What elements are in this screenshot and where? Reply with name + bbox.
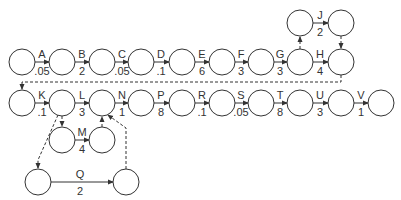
activity-name: J [317, 9, 323, 21]
activity-name: T [277, 89, 284, 101]
activity-duration: 3 [238, 65, 244, 77]
event-node [49, 49, 75, 75]
activity-name: F [238, 48, 245, 60]
activity-name: M [77, 126, 86, 138]
activity-duration: 2 [77, 185, 83, 197]
activity-name: H [316, 48, 324, 60]
activity-name: E [198, 48, 205, 60]
event-node [287, 49, 313, 75]
activity-duration: .1 [197, 106, 206, 118]
activity-duration: 1 [358, 106, 364, 118]
event-node [368, 90, 394, 116]
activity-name: L [79, 89, 85, 101]
event-node [248, 90, 274, 116]
activity-name: C [118, 48, 126, 60]
event-node [9, 90, 35, 116]
activity-duration: 3 [79, 106, 85, 118]
activity-duration: 2 [317, 26, 323, 38]
activity-name: S [237, 89, 244, 101]
activity-duration: .1 [156, 65, 165, 77]
activity-name: B [78, 48, 85, 60]
event-node [128, 90, 154, 116]
activity-duration: 6 [199, 65, 205, 77]
event-node [49, 90, 75, 116]
activity-duration: .1 [37, 106, 46, 118]
event-node [89, 127, 115, 153]
activity-duration: .05 [233, 106, 248, 118]
activity-name: N [118, 89, 126, 101]
activity-name: G [276, 48, 285, 60]
activity-duration: 4 [79, 143, 85, 155]
activity-duration: 2 [79, 65, 85, 77]
event-node [328, 10, 354, 36]
network-diagram: A .05 B 2 C .05 D .1 E 6 F 3 G 3 H 4 J 2… [0, 0, 401, 200]
event-node [209, 49, 235, 75]
event-node [89, 90, 115, 116]
activity-duration: 8 [277, 106, 283, 118]
activity-duration: 8 [158, 106, 164, 118]
event-node [209, 90, 235, 116]
event-node [328, 90, 354, 116]
activity-duration: 4 [317, 65, 323, 77]
event-node [49, 127, 75, 153]
activity-duration: .05 [34, 65, 49, 77]
dummy-row1-to-row2 [22, 75, 341, 89]
event-node [287, 10, 313, 36]
activity-name: V [357, 89, 365, 101]
activity-duration: 1 [119, 106, 125, 118]
activity-name: R [198, 89, 206, 101]
event-node [169, 49, 195, 75]
activity-name: U [316, 89, 324, 101]
event-node [25, 169, 51, 195]
activity-duration: 3 [277, 65, 283, 77]
event-node [169, 90, 195, 116]
event-node [9, 49, 35, 75]
activity-name: D [157, 48, 165, 60]
activity-duration: .05 [114, 65, 129, 77]
event-node [113, 169, 139, 195]
event-node [128, 49, 154, 75]
activity-name: Q [76, 168, 85, 180]
event-node [287, 90, 313, 116]
activity-name: P [157, 89, 164, 101]
event-node [248, 49, 274, 75]
activity-name: K [38, 89, 46, 101]
activity-name: A [38, 48, 46, 60]
event-node [328, 49, 354, 75]
event-node [89, 49, 115, 75]
activity-duration: 3 [317, 106, 323, 118]
